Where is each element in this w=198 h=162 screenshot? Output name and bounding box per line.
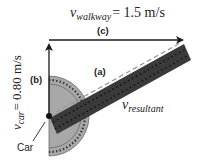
marker-c: (c)	[97, 25, 109, 36]
marker-a: (a)	[94, 66, 106, 77]
car-velocity-label: vcar= 0.80 m/s	[9, 55, 26, 130]
marker-b: (b)	[30, 74, 42, 85]
resultant-label: vresultant	[122, 97, 164, 114]
walkway-velocity-label: vwalkway= 1.5 m/s	[70, 5, 165, 22]
vector-diagram: vwalkway= 1.5 m/s (c) (b) (a) vcar= 0.80…	[0, 0, 198, 162]
car-label: Car	[17, 142, 34, 153]
car-pointer-line	[33, 122, 45, 141]
car-point	[46, 113, 52, 119]
